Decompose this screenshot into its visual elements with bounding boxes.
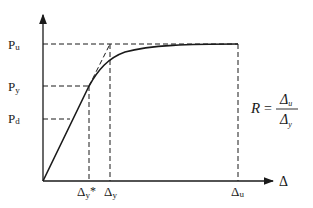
label-pd: Pd [8, 111, 20, 126]
formula-denominator: Δy [279, 112, 292, 129]
load-displacement-diagram: Pu Py Pd Δy* Δy Δu Δ R = Δu Δy [0, 0, 313, 208]
label-pu: Pu [8, 37, 20, 52]
formula-numerator: Δu [279, 92, 292, 108]
formula-lhs: R [250, 100, 260, 116]
formula-equals: = [264, 101, 272, 116]
x-axis-label: Δ [279, 174, 288, 189]
label-dystar: Δy* [77, 184, 96, 200]
ductility-formula: R = Δu Δy [250, 92, 298, 129]
label-dy: Δy [104, 184, 117, 200]
load-curve [43, 44, 238, 181]
label-du: Δu [231, 184, 244, 199]
label-py: Py [8, 79, 20, 95]
